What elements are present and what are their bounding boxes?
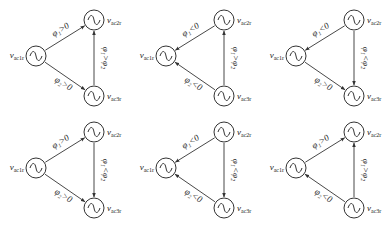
vac3r-label: vac3r <box>367 91 381 102</box>
vac2r-source <box>214 10 234 30</box>
edge-label-vertical: φ₁>φ₂ <box>231 47 241 69</box>
phase-diagram-canvas: φ₁>0φ₂>0φ₁>φ₂vac1rvac2rvac3rφ₁<0φ₂<0φ₁>φ… <box>0 0 390 225</box>
panel-d: φ₁>0φ₂>0φ₁<φ₂vac1rvac2rvac3r <box>10 122 122 218</box>
edge-label-vertical: φ₁>φ₂ <box>101 47 111 69</box>
vac3r-source <box>84 198 104 218</box>
panel-c: φ₁<0φ₂>0φ₁<φ₂vac1rvac2rvac3r <box>270 10 382 106</box>
edge-label-phi2: φ₂<0 <box>313 186 335 204</box>
edge-label-phi2: φ₂<0 <box>183 186 205 204</box>
vac2r-label: vac2r <box>367 15 381 26</box>
vac2r-label: vac2r <box>237 15 251 26</box>
edge-label-vertical: φ₁>φ₂ <box>361 159 371 181</box>
vac1r-label: vac1r <box>140 50 154 61</box>
vac1r-source <box>26 46 46 66</box>
vac1r-source <box>286 158 306 178</box>
vac2r-label: vac2r <box>107 127 121 138</box>
edge-label-phi2: φ₂<0 <box>183 74 205 92</box>
vac1r-source <box>156 158 176 178</box>
vac3r-source <box>344 198 364 218</box>
vac1r-label: vac1r <box>270 162 284 173</box>
vac1r-label: vac1r <box>140 162 154 173</box>
edge-label-vertical: φ₁<φ₂ <box>101 159 111 181</box>
vac3r-source <box>214 86 234 106</box>
vac2r-label: vac2r <box>107 15 121 26</box>
vac3r-source <box>214 198 234 218</box>
vac2r-source <box>84 10 104 30</box>
edge-label-vertical: φ₁<φ₂ <box>231 159 241 181</box>
vac3r-label: vac3r <box>237 203 251 214</box>
edge-label-phi2: φ₂>0 <box>313 74 335 92</box>
panel-b: φ₁<0φ₂<0φ₁>φ₂vac1rvac2rvac3r <box>140 10 252 106</box>
vac2r-source <box>84 122 104 142</box>
panel-e: φ₁<0φ₂<0φ₁<φ₂vac1rvac2rvac3r <box>140 122 252 218</box>
vac2r-label: vac2r <box>367 127 381 138</box>
edge-label-phi2: φ₂>0 <box>53 186 75 204</box>
vac1r-label: vac1r <box>10 50 24 61</box>
panel-a: φ₁>0φ₂>0φ₁>φ₂vac1rvac2rvac3r <box>10 10 122 106</box>
vac3r-label: vac3r <box>367 203 381 214</box>
panel-f: φ₁>0φ₂<0φ₁>φ₂vac1rvac2rvac3r <box>270 122 382 218</box>
vac3r-source <box>84 86 104 106</box>
vac1r-source <box>156 46 176 66</box>
vac1r-label: vac1r <box>10 162 24 173</box>
vac2r-source <box>344 122 364 142</box>
vac3r-label: vac3r <box>107 91 121 102</box>
vac1r-source <box>26 158 46 178</box>
vac2r-source <box>214 122 234 142</box>
vac2r-label: vac2r <box>237 127 251 138</box>
edge-label-phi2: φ₂>0 <box>53 74 75 92</box>
vac2r-source <box>344 10 364 30</box>
vac1r-label: vac1r <box>270 50 284 61</box>
edge-label-vertical: φ₁<φ₂ <box>361 47 371 69</box>
vac3r-source <box>344 86 364 106</box>
vac1r-source <box>286 46 306 66</box>
vac3r-label: vac3r <box>237 91 251 102</box>
vac3r-label: vac3r <box>107 203 121 214</box>
